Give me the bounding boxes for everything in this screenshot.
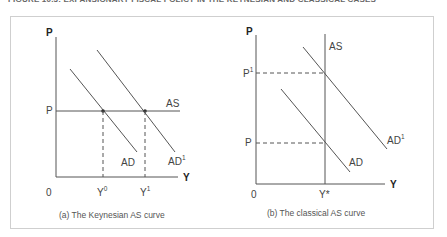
y1-tick-sup: 1 (147, 185, 151, 192)
panel-caption: (a) The Keynesian AS curve (59, 210, 165, 220)
y-axis-label: P (46, 27, 53, 38)
diagram-canvas: P Y 0 AS P AD AD1 Y0 Y1 (a) The Keynesia… (0, 0, 447, 237)
ad-curve (281, 89, 350, 172)
as-label: AS (166, 98, 180, 109)
x-axis-label: Y (183, 172, 190, 183)
ad1-label: AD1 (168, 154, 186, 167)
ad1-curve (97, 50, 175, 152)
origin-label: 0 (46, 187, 52, 198)
y1-tick-label: Y1 (140, 185, 151, 198)
panel-classical: P Y 0 AS P1 P AD AD1 Y* (b) The classica… (243, 26, 405, 218)
p1-label-sup: 1 (250, 66, 254, 73)
panel-keynesian: P Y 0 AS P AD AD1 Y0 Y1 (a) The Keynesia… (46, 27, 190, 220)
ad1-curve (303, 47, 387, 149)
ad1-label-base: AD (387, 135, 401, 146)
price-label: P (46, 105, 53, 116)
y0-tick-sup: 0 (104, 185, 108, 192)
origin-label: 0 (251, 189, 257, 200)
p-label: P (245, 137, 252, 148)
ad-label: AD (121, 157, 135, 168)
y0-tick-label: Y0 (97, 185, 108, 198)
ad1-label: AD1 (387, 133, 405, 146)
y-star-tick-label: Y* (319, 189, 330, 200)
ad1-label-sup: 1 (182, 154, 186, 161)
ad1-label-base: AD (168, 156, 182, 167)
panel-caption: (b) The classical AS curve (267, 208, 365, 218)
y-axis-label: P (246, 26, 253, 37)
x-axis-label: Y (390, 179, 397, 190)
p1-label: P1 (243, 66, 254, 79)
ad1-label-sup: 1 (401, 133, 405, 140)
as-label: AS (329, 41, 343, 52)
ad-label: AD (349, 157, 363, 168)
